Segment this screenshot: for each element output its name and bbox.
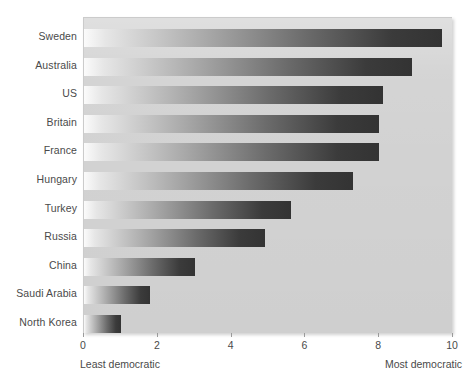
tick-label-8: 8 xyxy=(363,339,393,351)
bar-russia xyxy=(84,229,265,247)
tick-label-10: 10 xyxy=(437,339,467,351)
axis-caption-least-democratic: Least democratic xyxy=(80,358,160,370)
tick-mark xyxy=(157,333,158,337)
tick-mark xyxy=(83,333,84,337)
category-label-russia: Russia xyxy=(1,230,77,242)
axis-caption-most-democratic: Most democratic xyxy=(385,358,462,370)
category-label-australia: Australia xyxy=(1,59,77,71)
bar-north-korea xyxy=(84,315,121,333)
plot-area xyxy=(83,17,452,333)
tick-label-2: 2 xyxy=(142,339,172,351)
category-label-turkey: Turkey xyxy=(1,202,77,214)
tick-mark xyxy=(452,333,453,337)
tick-label-4: 4 xyxy=(216,339,246,351)
category-label-north-korea: North Korea xyxy=(1,316,77,328)
bar-sweden xyxy=(84,29,442,47)
x-axis: 0246810 xyxy=(83,333,452,334)
bar-china xyxy=(84,258,195,276)
bar-france xyxy=(84,143,379,161)
bar-australia xyxy=(84,58,412,76)
category-label-britain: Britain xyxy=(1,116,77,128)
tick-mark xyxy=(231,333,232,337)
bar-saudi-arabia xyxy=(84,286,150,304)
category-label-sweden: Sweden xyxy=(1,30,77,42)
category-label-saudi-arabia: Saudi Arabia xyxy=(1,287,77,299)
bar-britain xyxy=(84,115,379,133)
bar-hungary xyxy=(84,172,353,190)
bar-us xyxy=(84,86,383,104)
tick-mark xyxy=(304,333,305,337)
tick-label-6: 6 xyxy=(289,339,319,351)
category-label-france: France xyxy=(1,144,77,156)
category-label-hungary: Hungary xyxy=(1,173,77,185)
category-label-china: China xyxy=(1,259,77,271)
bar-turkey xyxy=(84,201,291,219)
category-label-us: US xyxy=(1,87,77,99)
tick-mark xyxy=(378,333,379,337)
bar-chart: SwedenAustraliaUSBritainFranceHungaryTur… xyxy=(0,0,476,381)
tick-label-0: 0 xyxy=(68,339,98,351)
